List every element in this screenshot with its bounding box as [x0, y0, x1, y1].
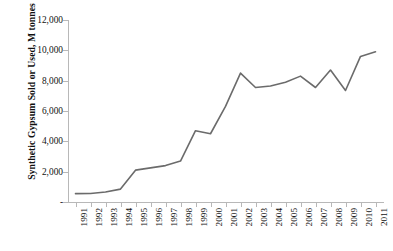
x-tick-label: 2002	[245, 208, 254, 251]
x-tick-label: 1998	[185, 208, 194, 251]
x-tick-mark	[301, 203, 302, 207]
y-axis-title: Synthetic Gypsum Sold or Used, M tonnes	[26, 0, 37, 187]
x-tick-mark	[106, 203, 107, 207]
x-tick-mark	[331, 203, 332, 207]
y-tick-mark	[63, 81, 68, 82]
y-tick-mark	[63, 202, 68, 203]
x-tick-label: 1995	[140, 208, 149, 251]
y-tick-label: -	[3, 197, 63, 207]
x-tick-mark	[181, 203, 182, 207]
y-tick-mark	[63, 20, 68, 21]
x-tick-mark	[286, 203, 287, 207]
x-tick-label: 2009	[350, 208, 359, 251]
x-tick-label: 2004	[275, 208, 284, 251]
x-tick-mark	[151, 203, 152, 207]
x-tick-mark	[271, 203, 272, 207]
y-tick-label: 12,000	[3, 15, 63, 25]
x-tick-mark	[211, 203, 212, 207]
x-tick-label: 2003	[260, 208, 269, 251]
x-tick-label: 1993	[110, 208, 119, 251]
x-tick-label: 2005	[290, 208, 299, 251]
x-tick-label: 1999	[200, 208, 209, 251]
x-tick-mark	[241, 203, 242, 207]
line-chart: Synthetic Gypsum Sold or Used, M tonnes …	[0, 0, 393, 251]
x-tick-label: 2010	[365, 208, 374, 251]
y-tick-label: 10,000	[3, 45, 63, 55]
y-tick-label: 2,000	[3, 167, 63, 177]
x-tick-label: 2006	[305, 208, 314, 251]
y-tick-label: 6,000	[3, 106, 63, 116]
x-tick-label: 2001	[230, 208, 239, 251]
x-tick-label: 2000	[215, 208, 224, 251]
y-tick-mark	[63, 111, 68, 112]
x-tick-mark	[376, 203, 377, 207]
x-tick-mark	[121, 203, 122, 207]
y-tick-mark	[63, 141, 68, 142]
y-tick-mark	[63, 50, 68, 51]
x-tick-label: 1992	[95, 208, 104, 251]
x-tick-label: 2007	[320, 208, 329, 251]
x-tick-mark	[136, 203, 137, 207]
x-tick-mark	[346, 203, 347, 207]
x-tick-mark	[91, 203, 92, 207]
x-tick-label: 2008	[335, 208, 344, 251]
x-tick-mark	[166, 203, 167, 207]
x-tick-label: 1991	[80, 208, 89, 251]
y-tick-label: 8,000	[3, 76, 63, 86]
x-tick-label: 1996	[155, 208, 164, 251]
y-tick-label: 4,000	[3, 136, 63, 146]
y-axis-line	[68, 20, 69, 203]
x-tick-mark	[316, 203, 317, 207]
x-tick-mark	[226, 203, 227, 207]
x-tick-label: 1994	[125, 208, 134, 251]
y-tick-mark	[63, 172, 68, 173]
x-tick-mark	[76, 203, 77, 207]
x-tick-mark	[361, 203, 362, 207]
x-tick-mark	[256, 203, 257, 207]
x-tick-mark	[196, 203, 197, 207]
x-tick-label: 1997	[170, 208, 179, 251]
x-tick-label: 2011	[380, 208, 389, 251]
